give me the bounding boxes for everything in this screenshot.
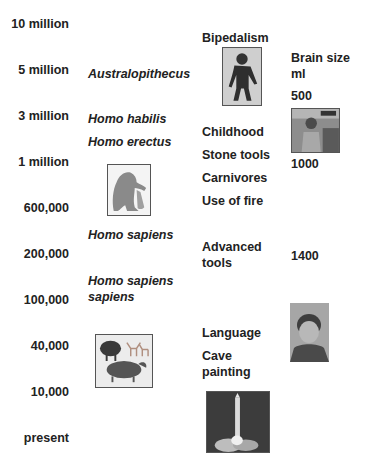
development-bipedalism: Bipedalism: [202, 30, 269, 46]
species-homo-sapiens: Homo sapiens: [88, 227, 173, 243]
time-label-3-million: 3 million: [0, 108, 69, 124]
boy-portrait-photo: [290, 303, 329, 362]
brain-size-500: 500: [291, 88, 312, 104]
toolmaker-image: [107, 164, 151, 216]
species-homo-sapiens-sapiens: Homo sapiens sapiens: [88, 273, 188, 305]
boy-face-icon: [290, 303, 329, 362]
brain-size-1000: 1000: [291, 156, 319, 172]
brain-size-header: Brain size ml: [291, 50, 363, 82]
development-carnivores: Carnivores: [202, 170, 267, 186]
development-language: Language: [202, 325, 261, 341]
development-use-of-fire: Use of fire: [202, 193, 263, 209]
bipedal-ape-image: [222, 47, 262, 106]
time-label-100000: 100,000: [0, 292, 69, 308]
species-homo-erectus: Homo erectus: [88, 134, 171, 150]
species-australopithecus: Australopithecus: [88, 66, 190, 82]
time-label-40000: 40,000: [0, 338, 69, 354]
time-label-10000: 10,000: [0, 384, 69, 400]
development-advanced-tools: Advanced tools: [202, 239, 274, 271]
brain-size-1400: 1400: [291, 248, 319, 264]
standing-ape-icon: [223, 48, 261, 105]
rocket-icon: [207, 392, 269, 452]
time-label-1-million: 1 million: [0, 154, 69, 170]
time-label-200000: 200,000: [0, 246, 69, 262]
child-icon: [292, 109, 339, 152]
development-childhood: Childhood: [202, 124, 264, 140]
cave-animals-icon: [96, 335, 152, 387]
cave-painting-image: [95, 334, 153, 388]
crouching-hominid-icon: [108, 165, 150, 215]
time-label-600000: 600,000: [0, 200, 69, 216]
rocket-launch-image: [206, 391, 270, 453]
child-photo: [291, 108, 340, 153]
time-label-5-million: 5 million: [0, 62, 69, 78]
development-cave-painting: Cave painting: [202, 348, 262, 380]
time-label-present: present: [0, 430, 69, 446]
time-label-10-million: 10 million: [0, 16, 69, 32]
species-homo-habilis: Homo habilis: [88, 111, 166, 127]
development-stone-tools: Stone tools: [202, 147, 270, 163]
